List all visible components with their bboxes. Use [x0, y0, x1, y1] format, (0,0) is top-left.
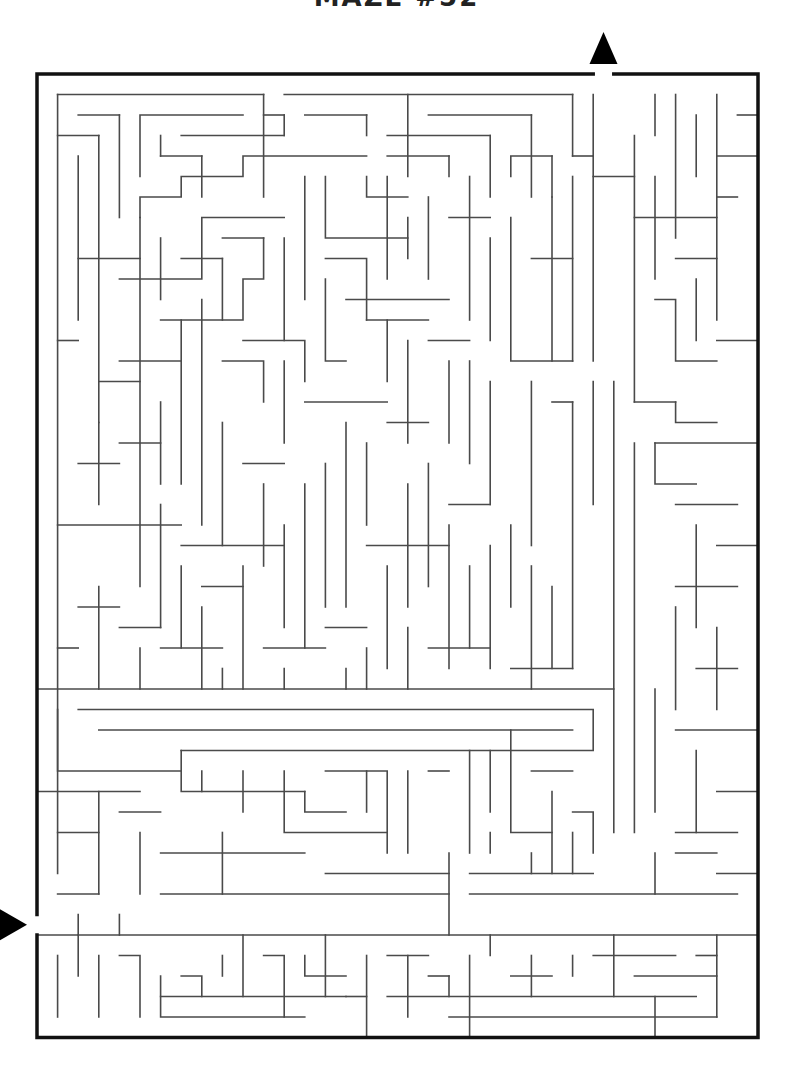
maze-wall: [264, 956, 285, 1018]
maze-wall: [140, 156, 367, 218]
maze-wall: [119, 218, 284, 280]
maze-outer-wall: [37, 74, 758, 1038]
maze-wall: [284, 771, 387, 833]
maze-border: [37, 74, 758, 1038]
finish-arrow-icon: [590, 32, 618, 64]
maze-wall: [676, 402, 717, 423]
start-arrow-icon: [0, 909, 27, 941]
maze-wall: [325, 259, 366, 321]
maze-wall: [511, 218, 573, 362]
maze-wall: [573, 812, 594, 853]
maze-wall: [58, 710, 182, 772]
maze-wall: [655, 443, 696, 484]
maze-wall: [305, 792, 346, 813]
maze-walls: [37, 95, 758, 1038]
maze-wall: [181, 976, 202, 997]
maze-wall: [325, 279, 346, 361]
maze-wall: [655, 300, 717, 362]
maze-wall: [222, 361, 263, 402]
maze-wall: [119, 956, 140, 1018]
maze-outer-wall: [37, 74, 593, 915]
maze-wall: [140, 115, 243, 177]
maze-board: [0, 0, 793, 1073]
maze-wall: [511, 730, 552, 833]
